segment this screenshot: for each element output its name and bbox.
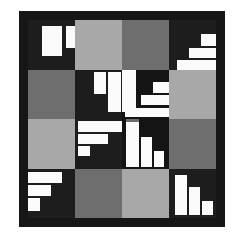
mosaic-grid xyxy=(28,20,216,218)
figure-frame xyxy=(19,11,225,227)
mosaic-cell-r3c3 xyxy=(122,119,169,169)
mosaic-cell-r2c1 xyxy=(28,70,75,120)
mosaic-bar xyxy=(202,201,213,215)
mosaic-bar xyxy=(153,82,169,93)
mosaic-cell-r2c4 xyxy=(169,70,216,120)
mosaic-cell-r4c2 xyxy=(75,169,122,219)
mosaic-cell-r1c4 xyxy=(169,20,216,70)
mosaic-cell-r3c2 xyxy=(75,119,122,169)
mosaic-bar xyxy=(78,146,90,156)
mosaic-figure xyxy=(0,0,236,237)
mosaic-bar xyxy=(125,108,169,117)
mosaic-cell-r4c1 xyxy=(28,169,75,219)
mosaic-cell-r4c4 xyxy=(169,169,216,219)
mosaic-cell-r2c3 xyxy=(122,70,169,120)
mosaic-bar xyxy=(78,121,122,132)
mosaic-cell-r3c1 xyxy=(28,119,75,169)
mosaic-cell-r1c2 xyxy=(75,20,122,70)
mosaic-bar xyxy=(28,185,51,196)
mosaic-bar xyxy=(94,72,106,94)
mosaic-bar xyxy=(28,172,62,183)
mosaic-bar xyxy=(78,134,108,144)
mosaic-bar xyxy=(189,48,216,58)
mosaic-bar xyxy=(154,151,164,167)
mosaic-cell-r1c3 xyxy=(122,20,169,70)
mosaic-bar xyxy=(141,95,169,105)
mosaic-bar xyxy=(126,122,139,167)
mosaic-bar xyxy=(28,198,40,211)
mosaic-bar xyxy=(141,137,152,167)
mosaic-bar xyxy=(177,60,216,70)
mosaic-bar xyxy=(201,34,216,46)
mosaic-cell-r3c4 xyxy=(169,119,216,169)
mosaic-bar xyxy=(66,26,75,48)
mosaic-cell-r4c3 xyxy=(122,169,169,219)
mosaic-bar xyxy=(122,70,136,112)
mosaic-bar xyxy=(175,175,187,215)
mosaic-bar xyxy=(108,72,121,112)
mosaic-cell-r1c1 xyxy=(28,20,75,70)
mosaic-bar xyxy=(189,187,200,215)
mosaic-cell-r2c2 xyxy=(75,70,122,120)
mosaic-bar xyxy=(42,26,62,56)
